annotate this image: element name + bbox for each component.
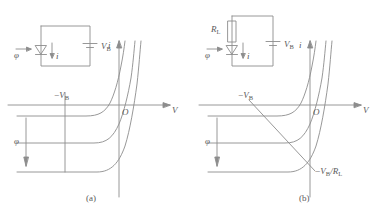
flux-label-b: φ: [205, 51, 210, 60]
flux-direction-label-b: φ: [205, 137, 210, 146]
flux-direction-arrow-a: [24, 118, 28, 166]
v-axis-a: [8, 103, 170, 108]
panel-a: φ i VB i V −VB O φ (a): [0, 0, 190, 215]
current-label-a: i: [56, 52, 59, 61]
i-axis-label-a: i: [108, 41, 111, 50]
origin-label-b: O: [313, 108, 320, 117]
v-axis-label-a: V: [172, 106, 178, 115]
breakdown-voltage-label-b: −VB: [238, 91, 253, 100]
load-resistor-label-b: RL: [211, 25, 221, 34]
v-axis-label-b: V: [363, 106, 369, 115]
caption-b: (b): [299, 193, 310, 203]
circuit-loop-b: [232, 16, 273, 66]
current-label-b: i: [247, 52, 250, 61]
characteristic-curve-2-b: [208, 41, 326, 143]
flux-label-a: φ: [14, 51, 19, 60]
breakdown-voltage-label-a: −VB: [54, 91, 69, 100]
panel-b: RL φ i VB i V −VB O φ −VB/RL (b): [191, 0, 381, 215]
circuit-loop-a: [41, 26, 90, 66]
bias-voltage-label-b: VB: [284, 40, 294, 49]
current-arrow-a: [50, 43, 54, 58]
flux-direction-label-a: φ: [14, 137, 19, 146]
panel-a-drawing: [0, 0, 190, 215]
origin-label-a: O: [122, 108, 129, 117]
v-axis-b: [199, 103, 361, 108]
flux-direction-arrow-b: [215, 118, 219, 166]
current-arrow-b: [241, 43, 245, 58]
figure-photodiode-characteristics: φ i VB i V −VB O φ (a): [0, 0, 381, 215]
load-line-b: [249, 100, 315, 171]
caption-a: (a): [86, 193, 96, 203]
characteristic-curve-2-a: [17, 41, 135, 143]
i-axis-label-b: i: [299, 41, 302, 50]
load-line-intercept-label-b: −VB/RL: [315, 167, 342, 176]
